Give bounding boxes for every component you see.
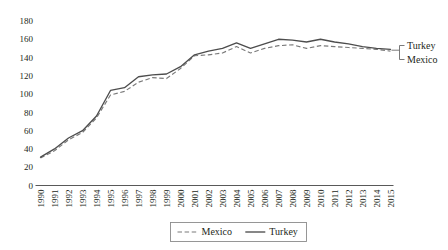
- y-tick-label: 20: [24, 162, 34, 172]
- x-tick-label: 1997: [134, 189, 144, 208]
- x-tick-label: 1996: [120, 189, 130, 208]
- x-tick-label: 2000: [176, 189, 186, 208]
- x-tick-label: 1995: [106, 189, 116, 208]
- x-tick-label: 1998: [148, 189, 158, 208]
- end-annotations: TurkeyMexico: [392, 40, 438, 65]
- series-group: [41, 39, 391, 158]
- x-tick-label: 1993: [78, 189, 88, 208]
- legend-label-mexico: Mexico: [202, 226, 233, 237]
- x-tick-label: 2013: [358, 189, 368, 208]
- x-tick-label: 2012: [344, 190, 354, 208]
- x-tick-label: 1991: [50, 190, 60, 208]
- x-tick-label: 2002: [204, 190, 214, 208]
- y-tick-label: 40: [24, 144, 34, 154]
- mexico-end-label: Mexico: [407, 54, 438, 65]
- x-tick-label: 2008: [288, 189, 298, 208]
- x-tick-label: 1990: [36, 189, 46, 208]
- series-line-mexico: [41, 45, 391, 158]
- y-tick-label: 100: [20, 89, 34, 99]
- x-tick-label: 2004: [232, 189, 242, 208]
- y-tick-label: 60: [24, 126, 34, 136]
- x-tick-label: 2003: [218, 189, 228, 208]
- legend-label-turkey: Turkey: [269, 226, 298, 237]
- x-tick-label: 2001: [190, 190, 200, 208]
- x-tick-label: 1992: [64, 190, 74, 208]
- y-tick-label: 120: [20, 71, 34, 81]
- y-axis-tick-labels: 020406080100120140160180: [20, 16, 34, 191]
- x-tick-label: 2015: [386, 189, 396, 208]
- y-tick-label: 140: [20, 53, 34, 63]
- y-tick-label: 80: [24, 108, 34, 118]
- x-tick-label: 1999: [162, 189, 172, 208]
- y-tick-label: 160: [20, 34, 34, 44]
- x-tick-label: 2009: [302, 189, 312, 208]
- x-tick-label: 2006: [260, 189, 270, 208]
- turkey-end-label: Turkey: [407, 40, 436, 51]
- x-tick-label: 1994: [92, 189, 102, 208]
- chart-canvas: 020406080100120140160180 199019911992199…: [0, 0, 448, 250]
- y-tick-label: 180: [20, 16, 34, 26]
- x-tick-label: 2010: [316, 189, 326, 208]
- y-tick-label: 0: [29, 181, 34, 191]
- line-chart: 020406080100120140160180 199019911992199…: [0, 0, 448, 250]
- x-axis-tick-labels: 1990199119921993199419951996199719981999…: [36, 189, 396, 208]
- series-line-turkey: [41, 39, 391, 157]
- chart-legend: MexicoTurkey: [171, 223, 307, 242]
- x-tick-label: 2011: [330, 190, 340, 208]
- x-tick-label: 2007: [274, 189, 284, 208]
- x-tick-label: 2014: [372, 189, 382, 208]
- x-tick-label: 2005: [246, 189, 256, 208]
